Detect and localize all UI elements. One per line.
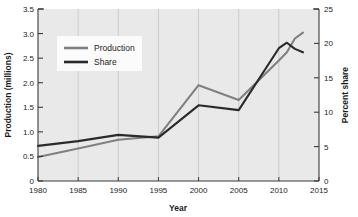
y-axis-tick-label: 2.5 [23,54,35,63]
x-axis-title: Year [169,203,188,213]
y-axis-tick-label: 0 [30,177,35,186]
x-axis-tick-label: 2000 [190,186,208,195]
y2-axis-tick-label: 25 [324,5,333,14]
x-axis-tick-label: 1980 [29,186,47,195]
y-axis-tick-label: 1.5 [23,103,35,112]
x-axis-tick-label: 1990 [109,186,127,195]
y-axis-tick-label: 0.5 [23,152,35,161]
y2-axis-tick-label: 10 [324,108,333,117]
x-axis-tick-label: 1995 [150,186,168,195]
chart-legend: ProductionShare [57,36,142,71]
legend-label-share: Share [94,57,117,67]
legend-label-production: Production [94,43,135,53]
y2-axis-tick-label: 0 [324,177,329,186]
chart-figure: 00.51.01.52.02.53.03.5 0510152025 198019… [0,0,358,217]
y-axis-tick-label: 1.0 [23,128,35,137]
y2-axis-tick-label: 5 [324,143,329,152]
x-axis-tick-label: 2015 [310,186,328,195]
x-axis-tick-label: 2010 [270,186,288,195]
y-axis-tick-label: 3.0 [23,30,35,39]
y2-axis-title: Percent share [340,67,350,123]
y-axis-tick-label: 2.0 [23,79,35,88]
left-axis-tick-labels: 00.51.01.52.02.53.03.5 [23,5,35,186]
y2-axis-tick-label: 15 [324,74,333,83]
plot-area-background [38,9,319,181]
y-axis-title: Production (millions) [3,52,13,137]
y-axis-tick-label: 3.5 [23,5,35,14]
x-axis-tick-label: 2005 [230,186,248,195]
x-axis-tick-labels: 19801985199019952000200520102015 [29,186,328,195]
line-chart: 00.51.01.52.02.53.03.5 0510152025 198019… [0,0,358,217]
y2-axis-tick-label: 20 [324,39,333,48]
right-axis-tick-labels: 0510152025 [324,5,333,186]
x-axis-tick-label: 1985 [69,186,87,195]
